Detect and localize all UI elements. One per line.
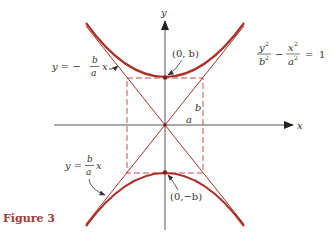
- vertex-top-pointer-arrow: [168, 60, 182, 75]
- asymptote-positive-label: y = b a x: [64, 154, 102, 177]
- svg-text:a: a: [91, 68, 96, 78]
- svg-text:=: =: [305, 49, 313, 60]
- svg-text:2: 2: [294, 40, 298, 47]
- svg-text:y =: y =: [64, 160, 82, 171]
- hyperbola-diagram: y x (0, b) (0,−b) b a y = − b a x y = b …: [0, 0, 335, 240]
- origin-dot: [163, 123, 167, 127]
- svg-text:y: y: [258, 42, 265, 53]
- svg-text:2: 2: [265, 40, 269, 47]
- figure-caption: Figure 3: [3, 212, 55, 225]
- svg-text:2: 2: [265, 54, 269, 61]
- asymptote-negative-pointer-arrow: [109, 66, 118, 69]
- y-axis-label: y: [160, 7, 167, 18]
- box-label-a: a: [186, 114, 192, 125]
- asymptote-negative-label: y = − b a x: [51, 55, 108, 78]
- svg-text:−: −: [275, 49, 283, 60]
- vertex-top-label: (0, b): [172, 48, 199, 59]
- hyperbola-equation: y 2 b 2 − x 2 a 2 = 1: [257, 40, 325, 67]
- vertex-bottom-label: (0,−b): [170, 191, 202, 202]
- vertex-top-dot: [163, 75, 168, 80]
- svg-text:2: 2: [294, 54, 298, 61]
- svg-text:1: 1: [319, 49, 325, 60]
- vertex-bottom-dot: [163, 170, 168, 175]
- svg-text:b: b: [92, 55, 98, 65]
- asymptote-positive-pointer-arrow: [89, 179, 105, 195]
- svg-text:x: x: [96, 160, 102, 171]
- vertex-bottom-pointer-arrow: [168, 175, 178, 190]
- svg-text:x: x: [102, 61, 108, 72]
- svg-text:b: b: [87, 154, 93, 164]
- box-label-b: b: [195, 102, 201, 113]
- svg-text:y = −: y = −: [51, 61, 81, 72]
- x-axis-label: x: [297, 120, 303, 131]
- svg-text:a: a: [86, 167, 91, 177]
